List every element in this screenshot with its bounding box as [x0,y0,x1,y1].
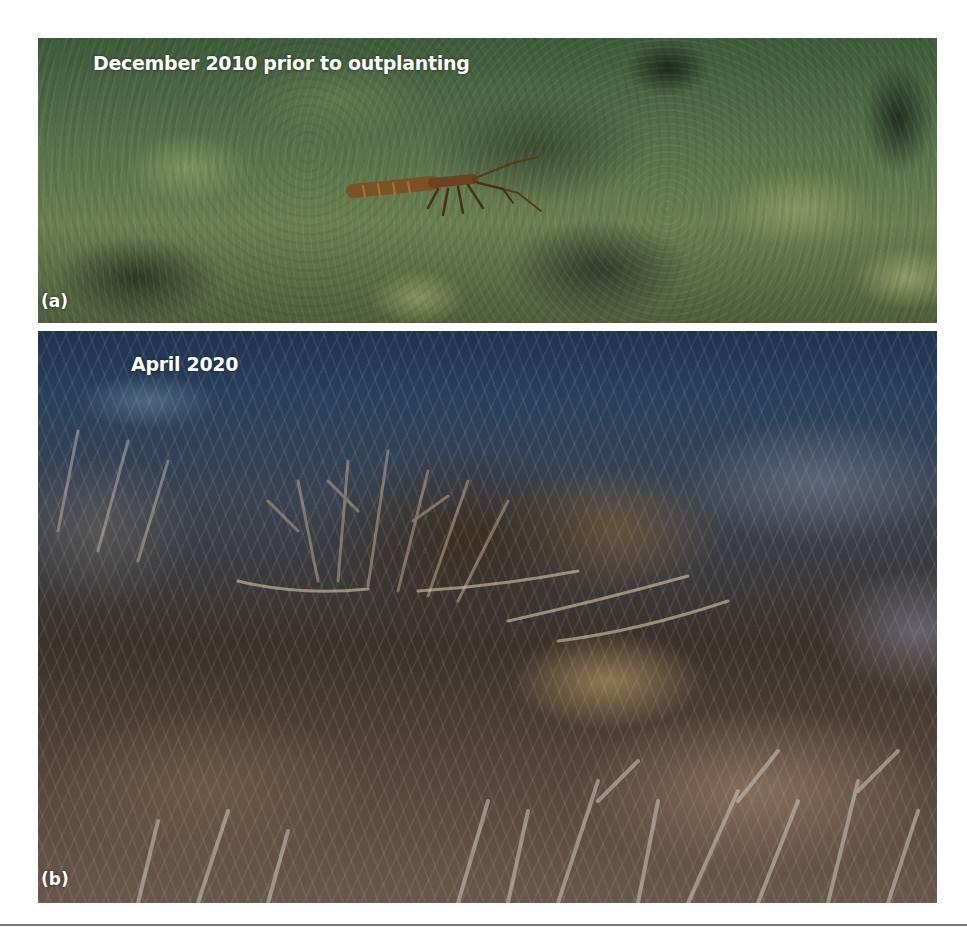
panel-b-label: (b) [41,869,69,889]
photo-panel-b: April 2020 (b) [38,331,937,903]
photo-panel-a: December 2010 prior to outplanting (a) [38,38,937,323]
footer-divider [0,924,967,926]
coral-colony-illustration [38,331,937,903]
panel-a-label: (a) [41,291,68,311]
panel-a-caption: December 2010 prior to outplanting [93,52,470,74]
lobster-illustration [343,153,543,223]
panel-b-caption: April 2020 [131,353,238,375]
